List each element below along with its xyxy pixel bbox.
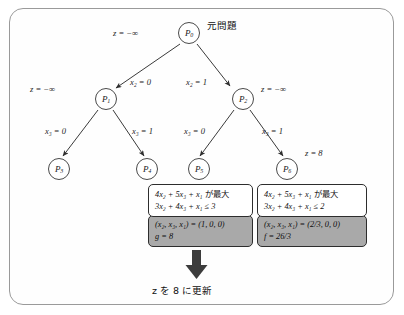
panel-left-formula-box: 4x₂ + 5x₃ + x₁ が最大 3x₂ + 4x₃ + x₁ ≤ 3	[148, 184, 253, 217]
edge-label-x3-eq-1-left: x₃ = 1	[132, 126, 153, 136]
figure-canvas: P0 P1 P2 P3 P4 P5 P6 z = −∞ z = −∞ z = −…	[0, 0, 404, 315]
tree-node-p4[interactable]: P4	[136, 158, 158, 180]
update-caption: z を 8 に更新	[152, 283, 212, 297]
panel-right-formula-box: 4x₂ + 5x₃ + x₁ が最大 3x₂ + 4x₃ + x₁ ≤ 2	[257, 184, 367, 217]
panel-right-solution: (x₂, x₃, x₁) = (2/3, 0, 0)	[264, 219, 361, 231]
node-sub-p4: 4	[148, 168, 151, 174]
node-sub-p5: 5	[200, 168, 203, 174]
node-sub-p2: 2	[244, 98, 247, 104]
edge-label-x3-eq-0-left: x₃ = 0	[45, 126, 66, 136]
bound-label-root: z = −∞	[113, 28, 138, 38]
bound-label-p1: z = −∞	[30, 84, 55, 94]
tree-node-p3[interactable]: P3	[48, 158, 70, 180]
edge-label-x2-eq-0: x₂ = 0	[130, 77, 151, 87]
edge-label-x3-eq-1-right: x₃ = 1	[262, 126, 283, 136]
panel-left-objective: 4x₂ + 5x₃ + x₁ が最大	[155, 188, 247, 201]
tree-node-p2[interactable]: P2	[232, 88, 254, 110]
bound-label-p2: z = −∞	[261, 84, 286, 94]
tree-node-p1[interactable]: P1	[95, 88, 117, 110]
tree-node-p5[interactable]: P5	[188, 158, 210, 180]
update-arrow-icon	[186, 250, 208, 279]
node-sub-p6: 6	[288, 168, 291, 174]
panel-right-result-box: (x₂, x₃, x₁) = (2/3, 0, 0) f = 26/3	[257, 215, 367, 247]
edge-label-x2-eq-1: x₂ = 1	[186, 77, 207, 87]
root-annotation: 元問題	[207, 18, 237, 32]
panel-right-constraint: 3x₂ + 4x₃ + x₁ ≤ 2	[264, 201, 361, 213]
panel-left-result-box: (x₂, x₃, x₁) = (1, 0, 0) g = 8	[148, 215, 253, 247]
tree-node-p0[interactable]: P0	[178, 22, 200, 44]
bound-label-p6: z = 8	[305, 148, 323, 158]
edge-p1-p3	[63, 110, 98, 156]
panel-left-value: g = 8	[155, 231, 247, 243]
panel-right-value: f = 26/3	[264, 231, 361, 243]
panel-left-solution: (x₂, x₃, x₁) = (1, 0, 0)	[155, 219, 247, 231]
panel-right: 4x₂ + 5x₃ + x₁ が最大 3x₂ + 4x₃ + x₁ ≤ 2 (x…	[257, 184, 367, 247]
panel-right-objective: 4x₂ + 5x₃ + x₁ が最大	[264, 188, 361, 201]
node-sub-p3: 3	[60, 168, 63, 174]
panel-left-constraint: 3x₂ + 4x₃ + x₁ ≤ 3	[155, 201, 247, 213]
edge-label-x3-eq-0-right: x₃ = 0	[184, 126, 205, 136]
edge-p2-p5	[200, 110, 234, 156]
node-sub-p1: 1	[107, 98, 110, 104]
panel-left: 4x₂ + 5x₃ + x₁ が最大 3x₂ + 4x₃ + x₁ ≤ 3 (x…	[148, 184, 253, 247]
node-sub-p0: 0	[190, 32, 193, 38]
tree-node-p6[interactable]: P6	[276, 158, 298, 180]
